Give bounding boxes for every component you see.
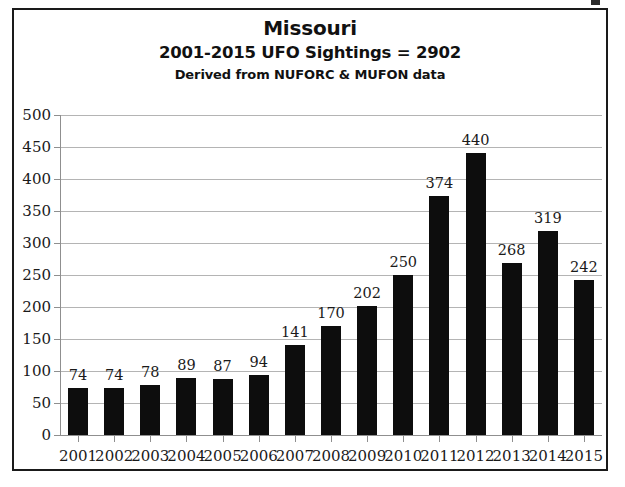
- title-block: Missouri 2001-2015 UFO Sightings = 2902 …: [14, 16, 606, 84]
- bar-value-label: 141: [281, 324, 309, 340]
- x-axis-tick-label: 2008: [312, 447, 350, 465]
- x-axis-tick: [584, 436, 585, 442]
- bar-value-label: 374: [426, 175, 454, 191]
- bar-value-label: 440: [462, 132, 490, 148]
- y-axis-tick: [54, 403, 60, 404]
- x-axis-tick-label: 2014: [529, 447, 567, 465]
- y-axis-tick-label: 100: [22, 362, 51, 380]
- y-axis-tick-label: 350: [22, 202, 51, 220]
- x-axis-tick: [512, 436, 513, 442]
- bar: [249, 375, 269, 435]
- chart-frame: Missouri 2001-2015 UFO Sightings = 2902 …: [12, 8, 608, 471]
- x-axis-tick-label: 2002: [95, 447, 133, 465]
- y-axis-tick: [54, 371, 60, 372]
- bar: [502, 263, 522, 435]
- x-axis-tick-label: 2006: [240, 447, 278, 465]
- x-axis-tick: [114, 436, 115, 442]
- y-axis-tick-label: 0: [41, 426, 51, 444]
- x-axis-tick-label: 2012: [456, 447, 494, 465]
- y-axis-tick: [54, 115, 60, 116]
- bar: [285, 345, 305, 435]
- bar: [393, 275, 413, 435]
- bar: [140, 385, 160, 435]
- x-axis-tick-label: 2013: [493, 447, 531, 465]
- chart-subtitle: 2001-2015 UFO Sightings = 2902: [14, 42, 606, 64]
- y-axis-tick-label: 150: [22, 330, 51, 348]
- x-axis-tick: [78, 436, 79, 442]
- y-axis-tick: [54, 211, 60, 212]
- plot-area: 050100150200250300350400450500 747478898…: [60, 115, 602, 435]
- bar: [357, 306, 377, 435]
- bar-value-label: 250: [389, 254, 417, 270]
- x-axis-tick-label: 2003: [131, 447, 169, 465]
- gridline: [60, 211, 602, 212]
- gridline: [60, 147, 602, 148]
- gridline: [60, 179, 602, 180]
- x-axis-tick: [295, 436, 296, 442]
- bar-value-label: 74: [105, 367, 123, 383]
- scan-artifact: [591, 0, 600, 5]
- x-axis-tick: [223, 436, 224, 442]
- bar-value-label: 268: [498, 242, 526, 258]
- y-axis-tick: [54, 243, 60, 244]
- y-axis-tick-label: 500: [22, 106, 51, 124]
- bar: [213, 379, 233, 435]
- bar-value-label: 74: [69, 367, 87, 383]
- bar-value-label: 89: [177, 357, 195, 373]
- x-axis-tick: [150, 436, 151, 442]
- x-axis-tick-label: 2011: [420, 447, 458, 465]
- y-axis-tick-label: 450: [22, 138, 51, 156]
- x-axis-tick-label: 2004: [167, 447, 205, 465]
- y-axis-tick: [54, 275, 60, 276]
- bar-value-label: 170: [317, 305, 345, 321]
- y-axis-tick: [54, 307, 60, 308]
- x-axis-tick: [331, 436, 332, 442]
- x-axis-tick: [259, 436, 260, 442]
- bar: [104, 388, 124, 435]
- y-axis-line: [60, 115, 61, 435]
- x-axis-tick-label: 2009: [348, 447, 386, 465]
- x-axis-tick: [476, 436, 477, 442]
- bar-value-label: 78: [141, 364, 159, 380]
- y-axis-tick-label: 300: [22, 234, 51, 252]
- bar-value-label: 87: [213, 358, 231, 374]
- y-axis-tick-label: 250: [22, 266, 51, 284]
- x-axis-tick: [186, 436, 187, 442]
- chart-source-note: Derived from NUFORC & MUFON data: [14, 66, 606, 84]
- y-axis-tick-label: 400: [22, 170, 51, 188]
- bar-value-label: 94: [249, 354, 267, 370]
- x-axis-tick: [367, 436, 368, 442]
- x-axis-tick-label: 2010: [384, 447, 422, 465]
- y-axis-tick-label: 50: [32, 394, 51, 412]
- bar: [574, 280, 594, 435]
- bar: [538, 231, 558, 435]
- x-axis-tick-label: 2005: [204, 447, 242, 465]
- y-axis-tick: [54, 339, 60, 340]
- x-axis-tick: [439, 436, 440, 442]
- bar-value-label: 242: [570, 259, 598, 275]
- x-axis-tick: [403, 436, 404, 442]
- x-axis-tick-label: 2015: [565, 447, 603, 465]
- gridline: [60, 115, 602, 116]
- bar-value-label: 319: [534, 210, 562, 226]
- bar: [466, 153, 486, 435]
- chart-title: Missouri: [14, 16, 606, 40]
- bar-value-label: 202: [353, 285, 381, 301]
- bar: [321, 326, 341, 435]
- y-axis-tick: [54, 179, 60, 180]
- bar: [68, 388, 88, 435]
- bar: [429, 196, 449, 435]
- x-axis-tick: [548, 436, 549, 442]
- x-axis-tick-label: 2007: [276, 447, 314, 465]
- y-axis-tick-label: 200: [22, 298, 51, 316]
- y-axis-tick: [54, 147, 60, 148]
- x-axis-tick-label: 2001: [59, 447, 97, 465]
- bar: [176, 378, 196, 435]
